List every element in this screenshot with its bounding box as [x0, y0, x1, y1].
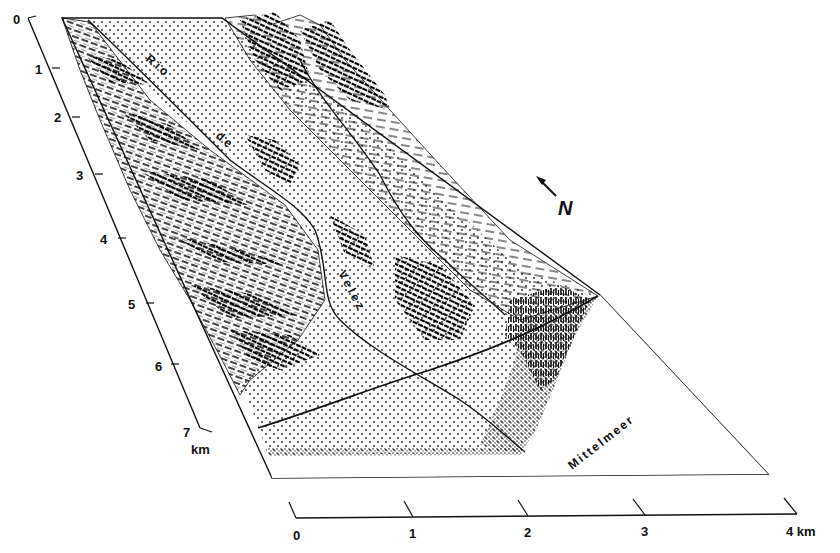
left-scale-tick-5: 5	[128, 297, 135, 312]
bottom-scale-tick-1: 1	[409, 526, 416, 541]
left-scale-tick-1: 1	[35, 62, 42, 77]
left-scale-tick-4: 4	[100, 232, 108, 247]
left-scale-tick-6: 6	[155, 359, 162, 374]
bottom-distance-scale: 0 1 2 3 4 km	[289, 498, 816, 543]
north-arrow: N	[536, 176, 573, 219]
left-scale-tick-0: 0	[13, 12, 20, 27]
left-scale-tick-2: 2	[54, 110, 61, 125]
left-scale-tick-3: 3	[76, 168, 83, 183]
left-scale-tick-7: 7	[183, 425, 190, 440]
bottom-scale-tick-3: 3	[641, 524, 648, 539]
north-label: N	[558, 197, 573, 219]
bottom-scale-tick-4: 4 km	[786, 524, 816, 539]
bottom-scale-tick-0: 0	[293, 528, 300, 543]
block-diagram: 0 1 2 3 4 5 6 7 km Mittelmeer	[0, 0, 840, 553]
bottom-scale-tick-2: 2	[524, 525, 531, 540]
left-scale-unit: km	[191, 442, 210, 457]
